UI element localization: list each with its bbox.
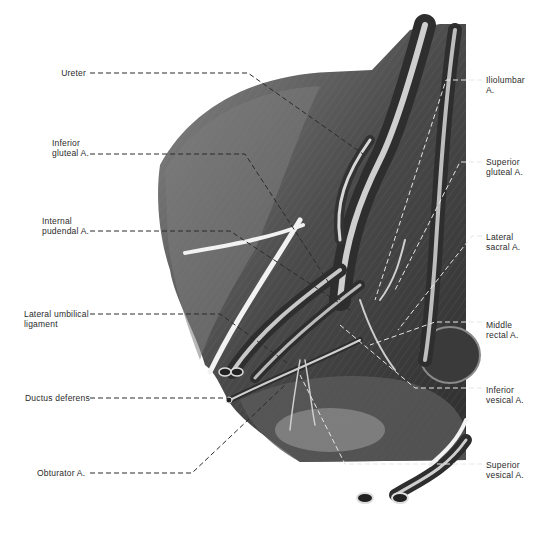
label-line: sacral A. — [486, 242, 520, 252]
label-middle-rectal: Middle rectal A. — [486, 320, 519, 340]
label-line: Inferior — [52, 138, 106, 148]
label-line: Ductus deferens — [25, 393, 90, 403]
label-line: Iliolumbar — [486, 75, 525, 85]
label-line: gluteal A. — [52, 148, 106, 158]
label-line: A. — [486, 85, 525, 95]
label-line: Lateral — [486, 232, 520, 242]
label-internal-pudendal: Internal pudendal A. — [42, 216, 89, 236]
label-line: vesical A. — [486, 470, 524, 480]
label-superior-vesical: Superior vesical A. — [486, 460, 524, 480]
label-obturator: Obturator A. — [37, 468, 85, 478]
label-line: ligament — [24, 319, 89, 329]
label-line: Superior — [486, 460, 524, 470]
label-line: Inferior — [486, 385, 524, 395]
label-line: Ureter — [20, 68, 86, 78]
label-line: Lateral umbilical — [24, 309, 89, 319]
label-line: rectal A. — [486, 330, 519, 340]
label-line: vesical A. — [486, 395, 524, 405]
label-lateral-sacral: Lateral sacral A. — [486, 232, 520, 252]
label-line: Superior — [486, 157, 523, 167]
label-inferior-vesical: Inferior vesical A. — [486, 385, 524, 405]
label-superior-gluteal: Superior gluteal A. — [486, 157, 523, 177]
label-ureter: Ureter — [20, 68, 86, 78]
label-lateral-umbilical: Lateral umbilical ligament — [24, 309, 89, 329]
label-line: pudendal A. — [42, 226, 89, 236]
anatomical-illustration — [0, 0, 551, 537]
label-line: Middle — [486, 320, 519, 330]
label-line: gluteal A. — [486, 167, 523, 177]
label-inferior-gluteal: Inferior gluteal A. — [20, 138, 106, 158]
label-ductus-deferens: Ductus deferens — [25, 393, 90, 403]
label-line: Obturator A. — [37, 468, 85, 478]
label-iliolumbar: Iliolumbar A. — [486, 75, 525, 95]
label-line: Internal — [42, 216, 89, 226]
